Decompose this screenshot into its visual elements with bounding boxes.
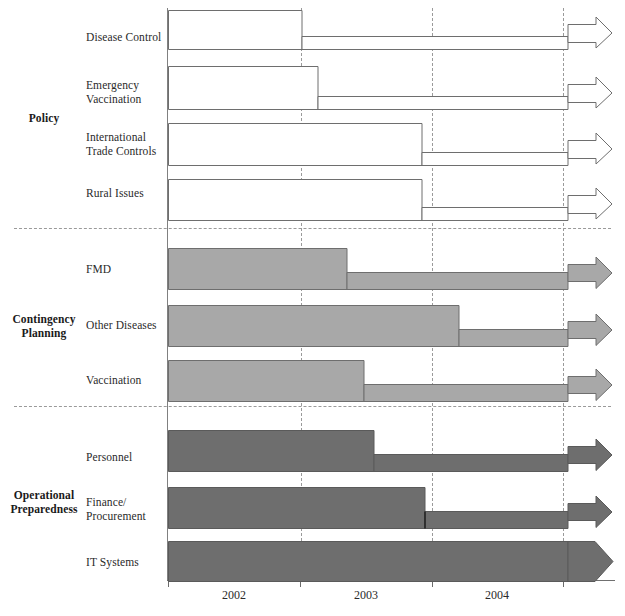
group-separator-policy [14,228,611,229]
task-label-intl-line2: Trade Controls [86,144,164,158]
axis-label-2002: 2002 [199,588,269,603]
task-label-emergency-line1: Emergency [86,78,164,92]
group-label-contingency-line2: Planning [2,327,86,341]
group-label-operational-preparedness: Operational Preparedness [2,489,86,516]
task-label-rural-issues: Rural Issues [86,186,164,200]
group-separator-contingency [14,406,611,407]
task-label-intl-line1: International [86,130,164,144]
task-label-vaccination: Vaccination [86,373,164,387]
bar-rural-issues[interactable] [168,179,615,221]
bar-disease-control[interactable] [168,10,615,50]
group-label-contingency-planning: Contingency Planning [2,313,86,340]
group-label-contingency-line1: Contingency [2,313,86,327]
task-label-it-systems: IT Systems [86,555,164,569]
bar-other-diseases[interactable] [168,305,615,347]
task-label-emergency-line2: Vaccination [86,92,164,106]
task-label-personnel: Personnel [86,450,164,464]
task-label-fmd: FMD [86,262,164,276]
bar-fmd[interactable] [168,248,615,290]
axis-label-2004: 2004 [462,588,532,603]
task-label-finance-procurement: Finance/ Procurement [86,495,164,523]
task-label-finance-line2: Procurement [86,509,164,523]
task-label-disease-control: Disease Control [86,30,164,44]
axis-label-2003: 2003 [331,588,401,603]
bar-it-systems[interactable] [168,541,615,582]
bar-personnel[interactable] [168,430,615,472]
group-label-operational-line1: Operational [2,489,86,503]
bar-emergency-vaccination[interactable] [168,66,615,110]
task-label-finance-line1: Finance/ [86,495,164,509]
gantt-chart: 2002 2003 2004 [0,0,625,616]
group-label-policy: Policy [2,112,86,126]
bar-vaccination[interactable] [168,360,615,402]
task-label-international-trade-controls: International Trade Controls [86,130,164,158]
task-label-emergency-vaccination: Emergency Vaccination [86,78,164,106]
group-label-operational-line2: Preparedness [2,503,86,517]
bar-finance-procurement[interactable] [168,487,615,529]
bar-international-trade-controls[interactable] [168,123,615,166]
task-label-other-diseases: Other Diseases [86,318,164,332]
